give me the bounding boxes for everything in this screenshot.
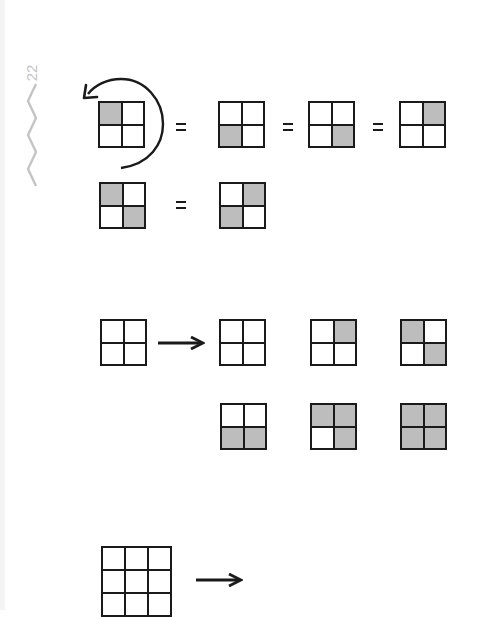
- coloring-result-grid: [220, 403, 267, 450]
- empty-cell: [221, 184, 242, 205]
- equals-sign: [176, 201, 186, 210]
- shaded-cell: [335, 321, 356, 342]
- shaded-cell: [312, 405, 333, 426]
- shaded-cell: [244, 184, 265, 205]
- shaded-cell: [101, 184, 122, 205]
- three-by-three-source-grid: [101, 546, 172, 617]
- right-arrow-icon: [157, 336, 205, 350]
- empty-cell: [102, 321, 123, 342]
- coloring-result-grid: [219, 319, 266, 366]
- empty-cell: [126, 548, 147, 569]
- shaded-cell: [424, 103, 445, 124]
- shaded-cell: [100, 103, 121, 124]
- empty-cell: [126, 571, 147, 592]
- margin-zigzag-decoration: [24, 82, 40, 188]
- empty-cell: [424, 126, 445, 147]
- empty-cell: [222, 405, 243, 426]
- page-edge-strip: [0, 0, 5, 610]
- equals-sign: [283, 123, 293, 132]
- rotation-row1-grid-3: [308, 101, 355, 148]
- empty-cell: [221, 321, 242, 342]
- equals-sign: [373, 123, 383, 132]
- empty-cell: [124, 184, 145, 205]
- shaded-cell: [335, 405, 356, 426]
- empty-cell: [333, 103, 354, 124]
- empty-cell: [103, 548, 124, 569]
- right-arrow-icon: [195, 573, 243, 587]
- empty-cell: [310, 126, 331, 147]
- empty-cell: [402, 344, 423, 365]
- shaded-cell: [221, 207, 242, 228]
- empty-cell: [425, 321, 446, 342]
- rotation-row2-grid-2: [219, 182, 266, 229]
- empty-cell: [220, 103, 241, 124]
- empty-cell: [149, 594, 170, 615]
- shaded-cell: [124, 207, 145, 228]
- empty-cell: [221, 344, 242, 365]
- coloring-result-grid: [310, 319, 357, 366]
- empty-cell: [312, 321, 333, 342]
- empty-cell: [244, 344, 265, 365]
- empty-cell: [401, 126, 422, 147]
- empty-cell: [123, 126, 144, 147]
- empty-cell: [103, 571, 124, 592]
- empty-cell: [125, 321, 146, 342]
- shaded-cell: [333, 126, 354, 147]
- empty-cell: [125, 344, 146, 365]
- page-number: 22: [23, 64, 41, 82]
- shaded-cell: [245, 428, 266, 449]
- empty-cell: [149, 571, 170, 592]
- rotation-row1-grid-1: [98, 101, 145, 148]
- shaded-cell: [425, 405, 446, 426]
- shaded-cell: [222, 428, 243, 449]
- empty-cell: [312, 344, 333, 365]
- coloring-result-grid: [400, 403, 447, 450]
- shaded-cell: [402, 428, 423, 449]
- empty-cell: [123, 103, 144, 124]
- empty-cell: [243, 103, 264, 124]
- empty-cell: [100, 126, 121, 147]
- shaded-cell: [402, 405, 423, 426]
- empty-cell: [310, 103, 331, 124]
- empty-cell: [245, 405, 266, 426]
- empty-cell: [102, 344, 123, 365]
- shaded-cell: [425, 428, 446, 449]
- empty-cell: [126, 594, 147, 615]
- shaded-cell: [220, 126, 241, 147]
- colorings-source-grid: [100, 319, 147, 366]
- empty-cell: [149, 548, 170, 569]
- rotation-row1-grid-2: [218, 101, 265, 148]
- empty-cell: [244, 207, 265, 228]
- empty-cell: [312, 428, 333, 449]
- rotation-row2-grid-1: [99, 182, 146, 229]
- coloring-result-grid: [400, 319, 447, 366]
- shaded-cell: [425, 344, 446, 365]
- shaded-cell: [402, 321, 423, 342]
- empty-cell: [401, 103, 422, 124]
- empty-cell: [103, 594, 124, 615]
- empty-cell: [335, 344, 356, 365]
- equals-sign: [176, 123, 186, 132]
- rotation-row1-grid-4: [399, 101, 446, 148]
- coloring-result-grid: [310, 403, 357, 450]
- shaded-cell: [335, 428, 356, 449]
- empty-cell: [243, 126, 264, 147]
- empty-cell: [244, 321, 265, 342]
- empty-cell: [101, 207, 122, 228]
